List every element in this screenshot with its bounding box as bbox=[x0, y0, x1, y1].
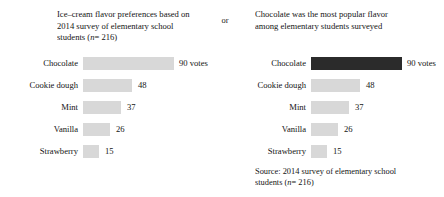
bar-label-cookie-dough: Cookie dough bbox=[236, 80, 306, 91]
bar-value-chocolate: 90 votes bbox=[407, 58, 436, 69]
bar-row-chocolate-highlighted: Chocolate 90 votes bbox=[236, 55, 444, 77]
bar-row-chocolate: Chocolate 90 votes bbox=[0, 55, 214, 77]
bar-label-vanilla: Vanilla bbox=[8, 124, 78, 135]
bar-strawberry bbox=[83, 145, 99, 158]
bar-row-strawberry: Strawberry 15 bbox=[236, 143, 444, 165]
source-note-line2-post: = 216) bbox=[292, 177, 314, 188]
bar-vanilla bbox=[311, 123, 338, 136]
left-chart-rows: Chocolate 90 votes Cookie dough 48 Mint … bbox=[0, 55, 214, 165]
bar-value-strawberry: 15 bbox=[333, 146, 342, 157]
bar-strawberry bbox=[311, 145, 327, 158]
bar-row-vanilla: Vanilla 26 bbox=[236, 121, 444, 143]
bar-value-cookie-dough: 48 bbox=[138, 80, 147, 91]
bar-label-chocolate: Chocolate bbox=[8, 58, 78, 69]
bar-chocolate-highlighted bbox=[311, 57, 402, 70]
left-chart-title-line3-post: = 216) bbox=[94, 32, 117, 44]
right-chart-panel: Chocolate was the most popular flavor am… bbox=[236, 0, 444, 197]
bar-value-strawberry: 15 bbox=[105, 146, 114, 157]
bar-label-mint: Mint bbox=[236, 102, 306, 113]
bar-mint bbox=[83, 101, 121, 114]
bar-label-cookie-dough: Cookie dough bbox=[8, 80, 78, 91]
right-chart-title: Chocolate was the most popular flavor am… bbox=[255, 9, 430, 32]
right-chart-title-line2: among elementary students surveyed bbox=[255, 21, 382, 33]
bar-value-cookie-dough: 48 bbox=[366, 80, 375, 91]
bar-value-vanilla: 26 bbox=[116, 124, 125, 135]
left-chart-title: Ice–cream flavor preferences based on 20… bbox=[57, 9, 207, 44]
figure-container: Ice–cream flavor preferences based on 20… bbox=[0, 0, 444, 197]
bar-value-vanilla: 26 bbox=[344, 124, 353, 135]
bar-label-strawberry: Strawberry bbox=[8, 146, 78, 157]
bar-vanilla bbox=[83, 123, 110, 136]
bar-chocolate bbox=[83, 57, 174, 70]
bar-label-strawberry: Strawberry bbox=[236, 146, 306, 157]
bar-label-mint: Mint bbox=[8, 102, 78, 113]
source-note: Source: 2014 survey of elementary school… bbox=[255, 166, 435, 189]
source-note-line2-pre: students ( bbox=[255, 177, 287, 188]
left-chart-title-line3-pre: students ( bbox=[57, 32, 90, 44]
left-chart-title-line1: Ice–cream flavor preferences based on bbox=[57, 9, 190, 21]
left-chart-title-line2: 2014 survey of elementary school bbox=[57, 21, 173, 33]
source-note-line1: Source: 2014 survey of elementary school bbox=[255, 166, 396, 177]
bar-cookie-dough bbox=[83, 79, 132, 92]
right-chart-title-line1: Chocolate was the most popular flavor bbox=[255, 9, 388, 21]
bar-row-cookie-dough: Cookie dough 48 bbox=[0, 77, 214, 99]
bar-row-vanilla: Vanilla 26 bbox=[0, 121, 214, 143]
bar-row-cookie-dough: Cookie dough 48 bbox=[236, 77, 444, 99]
bar-row-mint: Mint 37 bbox=[236, 99, 444, 121]
bar-value-chocolate: 90 votes bbox=[179, 58, 208, 69]
bar-cookie-dough bbox=[311, 79, 360, 92]
left-chart-panel: Ice–cream flavor preferences based on 20… bbox=[0, 0, 214, 197]
bar-row-strawberry: Strawberry 15 bbox=[0, 143, 214, 165]
bar-row-mint: Mint 37 bbox=[0, 99, 214, 121]
bar-value-mint: 37 bbox=[127, 102, 136, 113]
bar-label-chocolate: Chocolate bbox=[236, 58, 306, 69]
bar-label-vanilla: Vanilla bbox=[236, 124, 306, 135]
bar-value-mint: 37 bbox=[355, 102, 364, 113]
connector-or-label: or bbox=[214, 15, 236, 26]
bar-mint bbox=[311, 101, 349, 114]
right-chart-rows: Chocolate 90 votes Cookie dough 48 Mint … bbox=[236, 55, 444, 165]
